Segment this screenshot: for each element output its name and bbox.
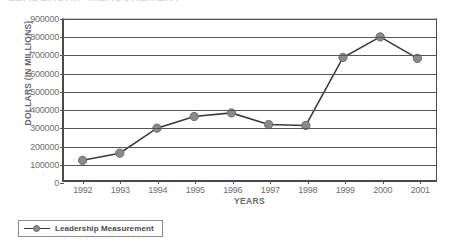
x-tick-mark	[383, 180, 384, 184]
x-tick-mark	[420, 180, 421, 184]
gridline-y	[64, 110, 436, 111]
x-axis-title: YEARS	[62, 196, 437, 206]
series-markers	[78, 33, 421, 165]
x-tick-mark	[233, 180, 234, 184]
y-tick-label: 100000	[30, 160, 59, 170]
gridline-y	[64, 74, 436, 75]
x-tick-label: 1998	[298, 185, 317, 195]
x-tick-mark	[195, 180, 196, 184]
page-title-text: LEADERSHIP MEASUREMENT	[8, 0, 181, 3]
y-tick-mark	[60, 55, 64, 56]
gridline-y	[64, 147, 436, 148]
y-tick-label: 200000	[30, 142, 59, 152]
x-tick-mark	[158, 180, 159, 184]
gridline-y	[64, 92, 436, 93]
x-tick-label: 1992	[73, 185, 92, 195]
data-point-marker	[78, 156, 86, 164]
x-tick-label: 1994	[148, 185, 167, 195]
y-tick-label: 300000	[30, 123, 59, 133]
x-tick-label: 2001	[411, 185, 430, 195]
y-tick-mark	[60, 110, 64, 111]
y-tick-mark	[60, 19, 64, 20]
gridline-y	[64, 55, 436, 56]
gridline-y	[64, 19, 436, 20]
legend-label: Leadership Measurement	[55, 224, 154, 233]
x-tick-mark	[83, 180, 84, 184]
y-tick-mark	[60, 92, 64, 93]
y-tick-label: 400000	[30, 105, 59, 115]
data-point-marker	[116, 149, 124, 157]
gridline-y	[64, 128, 436, 129]
y-tick-mark	[60, 165, 64, 166]
x-tick-label: 1995	[186, 185, 205, 195]
y-tick-mark	[60, 74, 64, 75]
series-layer	[64, 19, 436, 180]
y-tick-mark	[60, 147, 64, 148]
y-tick-label: 600000	[30, 69, 59, 79]
x-tick-label: 1996	[223, 185, 242, 195]
page-title-clipped: LEADERSHIP MEASUREMENT	[0, 0, 467, 5]
y-tick-label: 0	[54, 178, 59, 188]
x-tick-label: 1999	[336, 185, 355, 195]
y-tick-mark	[60, 37, 64, 38]
y-tick-label: 700000	[30, 50, 59, 60]
legend-symbol-line-marker-icon	[24, 224, 50, 233]
x-tick-label: 2000	[373, 185, 392, 195]
x-tick-mark	[308, 180, 309, 184]
y-tick-mark	[60, 183, 64, 184]
x-tick-mark	[120, 180, 121, 184]
gridline-y	[64, 165, 436, 166]
gridline-y	[64, 37, 436, 38]
x-tick-label: 1993	[111, 185, 130, 195]
y-tick-label: 800000	[30, 32, 59, 42]
chart-legend: Leadership Measurement	[18, 220, 163, 237]
plot-area: 0100000200000300000400000500000600000700…	[62, 18, 437, 182]
data-point-marker	[190, 112, 198, 120]
line-chart: DOLLARS (IN MILLIONS) 010000020000030000…	[0, 6, 467, 211]
y-tick-label: 900000	[30, 14, 59, 24]
y-tick-mark	[60, 128, 64, 129]
x-tick-mark	[345, 180, 346, 184]
x-tick-label: 1997	[261, 185, 280, 195]
y-tick-label: 500000	[30, 87, 59, 97]
x-tick-mark	[270, 180, 271, 184]
